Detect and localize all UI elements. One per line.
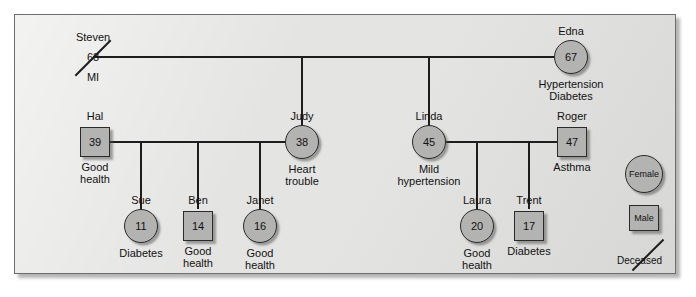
person-note-edna-line1: Hypertension — [539, 78, 604, 90]
person-note-sue: Diabetes — [119, 247, 162, 259]
legend-deceased-label: Deceased — [617, 255, 662, 266]
person-note-laura: Good health — [462, 247, 492, 271]
person-note-roger: Asthma — [553, 161, 590, 173]
person-note-laura-line2: health — [462, 259, 492, 271]
person-shape-laura: 20 — [460, 209, 494, 243]
marriage-line-steven-edna — [93, 56, 554, 58]
person-name-sue: Sue — [131, 194, 151, 206]
person-name-trent: Trent — [516, 194, 541, 206]
person-shape-hal: 39 — [80, 127, 110, 157]
person-name-steven: Steven — [76, 31, 110, 43]
legend-female-symbol: Female — [625, 155, 663, 193]
person-name-ben: Ben — [188, 194, 208, 206]
person-note-janet-line1: Good — [245, 247, 275, 259]
person-note-sue-line1: Diabetes — [119, 247, 162, 259]
person-name-roger: Roger — [557, 110, 587, 122]
person-shape-judy: 38 — [285, 125, 319, 159]
person-note-ben-line2: health — [183, 257, 213, 269]
person-note-janet-line2: health — [245, 259, 275, 271]
person-shape-ben: 14 — [183, 211, 213, 241]
person-note-judy: Heart trouble — [285, 163, 319, 187]
person-note-hal: Good health — [80, 161, 110, 185]
person-name-edna: Edna — [558, 25, 584, 37]
person-note-edna: Hypertension Diabetes — [539, 78, 604, 102]
person-note-roger-line1: Asthma — [553, 161, 590, 173]
person-note-linda-line1: Mild — [398, 163, 461, 175]
person-note-edna-line2: Diabetes — [539, 90, 604, 102]
person-note-laura-line1: Good — [462, 247, 492, 259]
person-shape-sue: 11 — [124, 209, 158, 243]
person-note-ben: Good health — [183, 245, 213, 269]
person-note-trent-line1: Diabetes — [507, 245, 550, 257]
person-shape-trent: 17 — [514, 211, 544, 241]
person-shape-linda: 45 — [412, 125, 446, 159]
person-note-judy-line2: trouble — [285, 175, 319, 187]
person-shape-janet: 16 — [243, 209, 277, 243]
person-name-janet: Janet — [247, 194, 274, 206]
legend-male-symbol: Male — [629, 205, 659, 231]
person-note-steven: MI — [87, 71, 99, 83]
genogram-root: Steven 68 MI Edna 67 Hypertension Diabet… — [0, 0, 696, 297]
person-name-hal: Hal — [87, 110, 104, 122]
genogram-panel: Steven 68 MI Edna 67 Hypertension Diabet… — [14, 14, 676, 274]
person-note-trent: Diabetes — [507, 245, 550, 257]
person-name-laura: Laura — [463, 194, 491, 206]
legend: Female Male Deceased — [611, 155, 676, 273]
person-note-janet: Good health — [245, 247, 275, 271]
person-note-hal-line2: health — [80, 173, 110, 185]
person-note-linda-line2: hypertension — [398, 175, 461, 187]
person-shape-roger: 47 — [557, 127, 587, 157]
person-name-linda: Linda — [416, 110, 443, 122]
person-note-ben-line1: Good — [183, 245, 213, 257]
person-note-judy-line1: Heart — [285, 163, 319, 175]
marriage-line-linda-roger — [446, 141, 557, 143]
person-name-judy: Judy — [290, 110, 313, 122]
person-note-linda: Mild hypertension — [398, 163, 461, 187]
person-shape-edna: 67 — [554, 40, 588, 74]
person-note-hal-line1: Good — [80, 161, 110, 173]
